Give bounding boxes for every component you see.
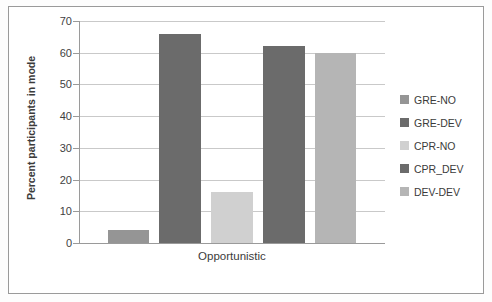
y-axis-tick-label: 0 <box>32 237 72 249</box>
y-axis-line <box>79 21 80 244</box>
chart-legend: GRE-NOGRE-DEVCPR-NOCPR_DEVDEV-DEV <box>400 88 486 203</box>
y-axis-tick-label: 70 <box>32 15 72 27</box>
y-axis-tick-label: 30 <box>32 142 72 154</box>
y-axis-tick-mark <box>73 53 79 54</box>
legend-label: CPR-NO <box>414 140 455 152</box>
legend-label: GRE-NO <box>414 94 456 106</box>
y-axis-tick-label: 60 <box>32 47 72 59</box>
gridline <box>79 21 385 22</box>
plot-area <box>79 21 385 243</box>
y-axis-tick-mark <box>73 180 79 181</box>
y-axis-tick-mark <box>73 243 79 244</box>
legend-swatch <box>400 141 409 150</box>
y-axis-tick-mark <box>73 21 79 22</box>
y-axis-tick-mark <box>73 211 79 212</box>
bar-dev-dev <box>315 53 356 243</box>
legend-item-gre-no[interactable]: GRE-NO <box>400 88 486 111</box>
legend-swatch <box>400 118 409 127</box>
y-axis-tick-label: 10 <box>32 205 72 217</box>
legend-item-cpr-no[interactable]: CPR-NO <box>400 134 486 157</box>
x-axis-category-label: Opportunistic <box>79 250 385 262</box>
bar-cpr-no <box>211 192 252 243</box>
legend-swatch <box>400 95 409 104</box>
legend-label: DEV-DEV <box>414 186 460 198</box>
bar-gre-no <box>108 230 149 243</box>
legend-label: GRE-DEV <box>414 117 462 129</box>
y-axis-tick-label: 50 <box>32 78 72 90</box>
y-axis-tick-label: 20 <box>32 174 72 186</box>
bar-cpr-dev <box>263 46 304 243</box>
y-axis-tick-mark <box>73 84 79 85</box>
legend-item-cpr-dev[interactable]: CPR_DEV <box>400 157 486 180</box>
y-axis-tick-mark <box>73 116 79 117</box>
legend-swatch <box>400 187 409 196</box>
y-axis-tick-labels: 010203040506070 <box>26 0 72 302</box>
chart-figure: Percent participants in mode 01020304050… <box>0 0 492 302</box>
legend-item-dev-dev[interactable]: DEV-DEV <box>400 180 486 203</box>
legend-swatch <box>400 164 409 173</box>
y-axis-tick-label: 40 <box>32 110 72 122</box>
y-axis-tick-mark <box>73 148 79 149</box>
legend-label: CPR_DEV <box>414 163 464 175</box>
bar-gre-dev <box>159 34 200 243</box>
legend-item-gre-dev[interactable]: GRE-DEV <box>400 111 486 134</box>
x-axis-line <box>79 243 385 244</box>
